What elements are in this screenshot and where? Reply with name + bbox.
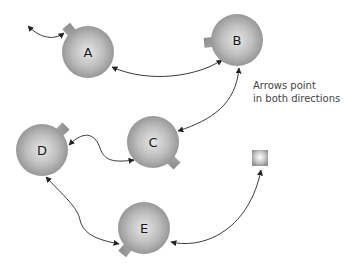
- annotation-note: Arrows point in both directions: [253, 79, 340, 105]
- node-c-label: C: [148, 135, 157, 150]
- network-diagram: A B C D E: [0, 0, 358, 270]
- node-d[interactable]: D: [16, 122, 70, 176]
- annotation-line-1: Arrows point: [253, 79, 340, 92]
- node-e-label: E: [140, 221, 148, 236]
- edge-a-b: [112, 60, 222, 76]
- edge-b-c: [178, 68, 239, 131]
- edge-e-square: [171, 170, 261, 244]
- node-b[interactable]: B: [204, 14, 263, 66]
- node-a[interactable]: A: [62, 23, 114, 78]
- edge-d-e: [46, 177, 119, 244]
- square-node[interactable]: [252, 150, 268, 166]
- annotation-line-2: in both directions: [253, 92, 340, 105]
- node-a-label: A: [84, 45, 93, 60]
- node-d-label: D: [37, 143, 47, 158]
- edge-a-offscreen: [28, 26, 64, 37]
- node-e[interactable]: E: [118, 202, 170, 257]
- edge-d-c: [69, 135, 134, 161]
- node-c[interactable]: C: [127, 116, 181, 170]
- node-b-label: B: [233, 33, 242, 48]
